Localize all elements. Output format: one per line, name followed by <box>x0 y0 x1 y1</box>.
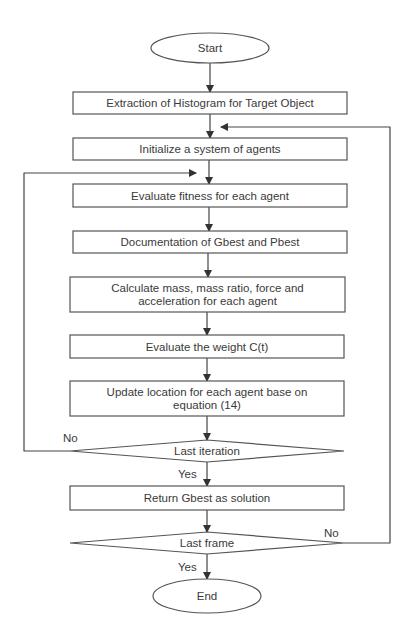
node-document: Documentation of Gbest and Pbest <box>73 231 347 253</box>
edge-label-yes: Yes <box>178 468 197 480</box>
node-label: Update location for each agent base on <box>107 386 308 398</box>
node-update: Update location for each agent base oneq… <box>70 381 344 416</box>
node-label: equation (14) <box>173 399 241 411</box>
node-label: Initialize a system of agents <box>139 143 281 155</box>
nodes-layer: StartExtraction of Histogram for Target … <box>70 33 347 613</box>
node-last_iter: Last iteration <box>70 440 344 462</box>
node-label: Calculate mass, mass ratio, force and <box>111 282 303 294</box>
edge-label-no: No <box>324 527 339 539</box>
node-label: Evaluate fitness for each agent <box>131 190 290 202</box>
edge-label-no: No <box>63 432 78 444</box>
node-calculate: Calculate mass, mass ratio, force andacc… <box>70 277 345 312</box>
node-init: Initialize a system of agents <box>73 138 347 160</box>
node-start: Start <box>151 33 269 63</box>
edge-label-yes: Yes <box>178 561 197 573</box>
node-last_frame: Last frame <box>70 532 344 554</box>
node-label: Last iteration <box>174 445 240 457</box>
node-fitness: Evaluate fitness for each agent <box>73 184 347 207</box>
node-label: Last frame <box>180 537 234 549</box>
node-label: Documentation of Gbest and Pbest <box>121 236 301 248</box>
node-label: Return Gbest as solution <box>144 492 271 504</box>
node-label: acceleration for each agent <box>138 295 278 307</box>
node-label: Evaluate the weight C(t) <box>146 341 269 353</box>
node-weight: Evaluate the weight C(t) <box>70 335 344 358</box>
node-label: End <box>197 590 217 602</box>
node-extract: Extraction of Histogram for Target Objec… <box>73 92 347 114</box>
node-end: End <box>153 579 261 613</box>
node-return: Return Gbest as solution <box>70 486 344 510</box>
flowchart-diagram: StartExtraction of Histogram for Target … <box>0 0 409 643</box>
node-label: Start <box>198 42 223 54</box>
node-label: Extraction of Histogram for Target Objec… <box>106 97 314 109</box>
